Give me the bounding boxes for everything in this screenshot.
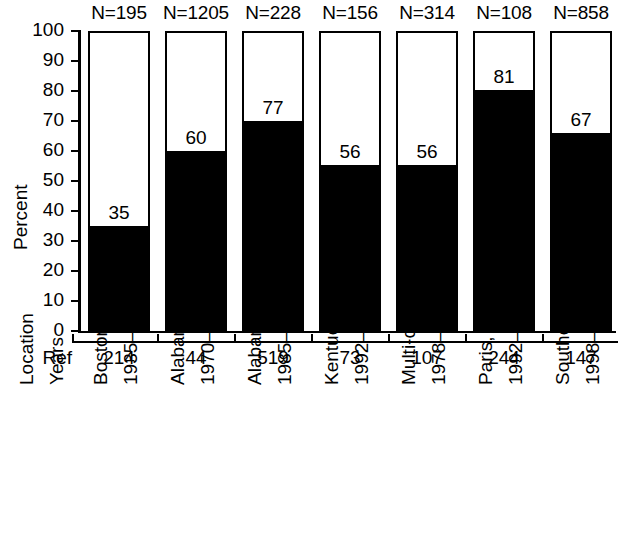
- category-years-label: 1998–9: [582, 322, 604, 385]
- y-axis-tick: [71, 30, 78, 32]
- y-axis-tick-label: 10: [0, 289, 64, 311]
- y-axis-tick: [71, 210, 78, 212]
- category-location-label: Multi-center, USA: [398, 237, 420, 385]
- y-axis-tick: [71, 240, 78, 242]
- y-axis-title: Percent: [10, 185, 32, 250]
- sample-size-label: N=228: [234, 2, 312, 24]
- category-years-label: 1985–89: [274, 311, 296, 385]
- ref-axis-tick: [234, 334, 236, 342]
- sample-size-label: N=858: [542, 2, 620, 24]
- category-years-label: 1992–4: [351, 322, 373, 385]
- y-axis-tick-label: 100: [0, 19, 64, 41]
- bar-value-label: 56: [396, 141, 458, 163]
- category-location-label: Boston, USA: [90, 276, 112, 385]
- sample-size-label: N=108: [465, 2, 543, 24]
- category-location-label: Kentucky, USA: [321, 259, 343, 385]
- bar-value-label: 81: [473, 66, 535, 88]
- y-axis-tick-label: 20: [0, 259, 64, 281]
- y-axis-tick-label: 90: [0, 49, 64, 71]
- ref-axis-tick: [542, 334, 544, 342]
- bar-value-label: 35: [88, 202, 150, 224]
- category-location-label: Alabama, USA: [167, 260, 189, 385]
- category-location-label: Alabama, USA: [244, 260, 266, 385]
- ref-axis-tick: [157, 334, 159, 342]
- y-axis-line: [78, 30, 81, 333]
- y-axis-tick: [71, 150, 78, 152]
- years-row-header: Years: [46, 337, 68, 385]
- plot-baseline: [78, 331, 616, 333]
- ref-axis-tick: [388, 334, 390, 342]
- bar-chart: 1009080706050403020100Percent35N=19560N=…: [0, 0, 640, 535]
- category-location-label: Southern Israel: [552, 256, 574, 385]
- y-axis-tick-label: 60: [0, 139, 64, 161]
- y-axis-tick: [71, 120, 78, 122]
- bar-value-label: 56: [319, 141, 381, 163]
- y-axis-tick: [71, 90, 78, 92]
- location-row-header: Location: [16, 313, 38, 385]
- sample-size-label: N=1205: [157, 2, 235, 24]
- bar-value-label: 67: [550, 109, 612, 131]
- y-axis-tick: [71, 270, 78, 272]
- y-axis-tick: [71, 60, 78, 62]
- category-years-label: 1970–77: [197, 311, 219, 385]
- y-axis-tick-label: 80: [0, 79, 64, 101]
- bar-value-label: 77: [242, 97, 304, 119]
- ref-axis-tick: [72, 334, 74, 342]
- ref-axis-line: [72, 341, 618, 343]
- sample-size-label: N=195: [80, 2, 158, 24]
- bar-value-label: 60: [165, 127, 227, 149]
- sample-size-label: N=156: [311, 2, 389, 24]
- category-location-label: Paris, France: [475, 272, 497, 385]
- category-years-label: 1935–74: [120, 311, 142, 385]
- y-axis-tick-label: 70: [0, 109, 64, 131]
- ref-axis-tick: [465, 334, 467, 342]
- category-years-label: 1978–94: [428, 311, 450, 385]
- category-years-label: 1992–7: [505, 322, 527, 385]
- sample-size-label: N=314: [388, 2, 466, 24]
- y-axis-tick: [71, 300, 78, 302]
- y-axis-tick: [71, 330, 78, 332]
- y-axis-tick: [71, 180, 78, 182]
- ref-axis-tick: [311, 334, 313, 342]
